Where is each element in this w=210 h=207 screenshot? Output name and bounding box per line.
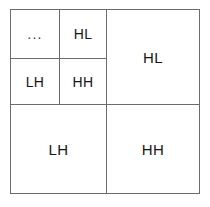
wavelet-decomposition-diagram: ... HL LH HH HL LH HH — [0, 0, 210, 207]
quadrant-lh: LH — [11, 104, 106, 193]
subquadrant-ll-ll-label: ... — [27, 27, 42, 41]
quadrant-hl: HL — [106, 10, 199, 104]
subquadrant-ll-ll: ... — [11, 10, 59, 58]
subquadrant-ll-lh-label: LH — [26, 75, 45, 89]
quadrant-lh-label: LH — [49, 142, 69, 157]
quadrant-hh: HH — [106, 104, 199, 193]
quadrant-ll: ... HL LH HH — [11, 10, 106, 104]
decomposition-outer-frame: ... HL LH HH HL LH HH — [10, 9, 200, 194]
subquadrant-ll-hh-label: HH — [72, 74, 93, 88]
subquadrant-ll-hl: HL — [59, 10, 106, 58]
subquadrant-ll-lh: LH — [11, 58, 59, 104]
subquadrant-ll-hh: HH — [59, 58, 106, 104]
subquadrant-ll-hl-label: HL — [74, 27, 93, 41]
quadrant-hl-label: HL — [143, 50, 163, 65]
quadrant-hh-label: HH — [142, 142, 164, 157]
